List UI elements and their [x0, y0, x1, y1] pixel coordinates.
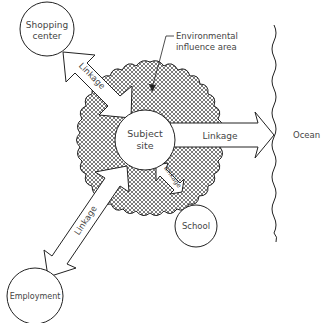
svg-text:center: center — [33, 31, 62, 41]
svg-text:Employment: Employment — [10, 292, 61, 301]
employment-node: Employment — [7, 268, 63, 323]
svg-text:School: School — [182, 221, 210, 231]
svg-text:Subject: Subject — [127, 128, 163, 139]
shopping-center-node: Shopping center — [20, 2, 74, 56]
linkage-label-ocean: Linkage — [202, 131, 238, 141]
svg-text:influence area: influence area — [176, 42, 237, 52]
subject-site-node: Subject site — [115, 110, 175, 170]
ocean-label: Ocean — [293, 130, 320, 140]
svg-text:site: site — [136, 140, 153, 151]
svg-text:Environmental: Environmental — [176, 31, 238, 41]
svg-text:Shopping: Shopping — [26, 20, 68, 30]
school-node: School — [175, 205, 217, 247]
diagram-canvas: Linkage Linkage Linkage Linkage Subject … — [0, 0, 325, 323]
